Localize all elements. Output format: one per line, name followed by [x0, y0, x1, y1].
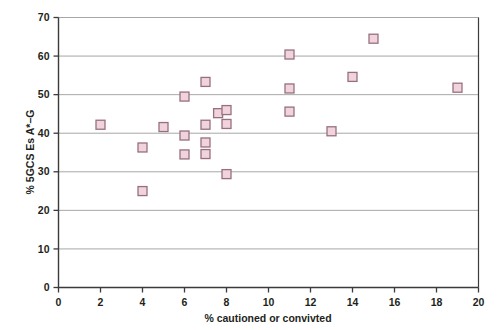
x-tick-label: 16	[389, 296, 401, 308]
data-point	[214, 109, 223, 118]
x-tick-label: 2	[98, 296, 104, 308]
data-point	[222, 106, 231, 115]
x-axis-title: % cautioned or convivted	[204, 312, 331, 324]
data-point	[285, 50, 294, 59]
data-point	[138, 187, 147, 196]
y-tick-label: 50	[38, 88, 50, 100]
x-tick-label: 10	[263, 296, 275, 308]
data-point	[180, 92, 189, 101]
data-point	[180, 150, 189, 159]
y-tick-label: 10	[38, 243, 50, 255]
data-point	[180, 131, 189, 140]
y-tick-label: 0	[44, 281, 50, 293]
data-point	[159, 123, 168, 132]
data-point	[285, 107, 294, 116]
data-point	[222, 170, 231, 179]
x-tick-label: 14	[347, 296, 359, 308]
data-point	[369, 34, 378, 43]
data-point	[327, 127, 336, 136]
data-point	[348, 72, 357, 81]
scatter-chart: 010203040506070 02468101214161820 % caut…	[0, 0, 501, 330]
y-tick-label: 70	[38, 11, 50, 23]
data-point	[201, 120, 210, 129]
y-tick-label: 60	[38, 50, 50, 62]
data-point	[222, 119, 231, 128]
chart-canvas: 010203040506070 02468101214161820 % caut…	[0, 0, 501, 330]
y-tick-label: 30	[38, 165, 50, 177]
y-axis-title: % 5GCS Es A*–G	[24, 110, 36, 195]
data-point	[201, 77, 210, 86]
x-tick-label: 6	[182, 296, 188, 308]
data-point	[138, 143, 147, 152]
x-tick-label: 0	[56, 296, 62, 308]
y-tick-label: 40	[38, 127, 50, 139]
data-point	[201, 138, 210, 147]
x-tick-label: 18	[431, 296, 443, 308]
y-tick-label: 20	[38, 204, 50, 216]
data-point	[96, 120, 105, 129]
x-tick-label: 12	[305, 296, 317, 308]
data-point	[285, 84, 294, 93]
data-point	[201, 150, 210, 159]
x-tick-label: 4	[140, 296, 146, 308]
x-tick-label: 20	[473, 296, 485, 308]
x-tick-label: 8	[224, 296, 230, 308]
chart-background	[0, 0, 501, 330]
data-point	[453, 83, 462, 92]
